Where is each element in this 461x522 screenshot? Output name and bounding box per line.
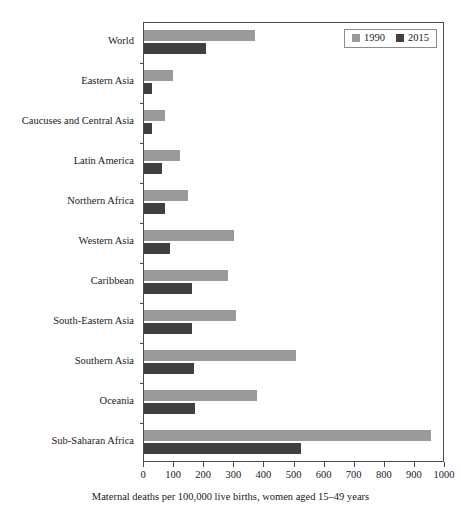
- bar-2015: [144, 443, 301, 454]
- bar-1990: [144, 30, 255, 41]
- x-tick-label: 1000: [434, 469, 455, 480]
- x-tick: [354, 462, 355, 467]
- category-label: Latin America: [74, 155, 134, 166]
- bar-2015: [144, 43, 206, 54]
- x-tick: [263, 462, 264, 467]
- x-tick-label: 900: [406, 469, 422, 480]
- category-label: Sub-Saharan Africa: [51, 435, 134, 446]
- x-tick: [173, 462, 174, 467]
- bar-group: [144, 223, 443, 263]
- bar-2015: [144, 323, 192, 334]
- bar-2015: [144, 123, 152, 134]
- x-tick-label: 700: [346, 469, 362, 480]
- bar-1990: [144, 110, 165, 121]
- bar-1990: [144, 190, 188, 201]
- category-tick: [140, 63, 144, 64]
- x-tick-label: 0: [140, 469, 145, 480]
- category-tick: [140, 423, 144, 424]
- bar-2015: [144, 283, 192, 294]
- category-label: Oceania: [100, 395, 134, 406]
- bar-1990: [144, 390, 257, 401]
- bar-2015: [144, 83, 152, 94]
- category-label: South-Eastern Asia: [53, 315, 134, 326]
- category-tick: [140, 303, 144, 304]
- category-label: Southern Asia: [75, 355, 134, 366]
- bar-1990: [144, 150, 180, 161]
- x-tick: [233, 462, 234, 467]
- category-tick: [140, 223, 144, 224]
- plot-area: 19902015: [143, 22, 444, 462]
- x-tick: [444, 462, 445, 467]
- category-label: Northern Africa: [67, 195, 134, 206]
- category-label: Caribbean: [91, 275, 134, 286]
- bar-1990: [144, 70, 173, 81]
- legend-entry: 1990: [352, 33, 385, 44]
- category-label: World: [108, 35, 134, 46]
- x-tick: [384, 462, 385, 467]
- category-label: Western Asia: [79, 235, 134, 246]
- bar-group: [144, 183, 443, 223]
- category-tick: [140, 143, 144, 144]
- bar-2015: [144, 403, 195, 414]
- x-tick-label: 100: [165, 469, 181, 480]
- legend-swatch-icon: [396, 34, 404, 42]
- chart-figure: WorldEastern AsiaCaucuses and Central As…: [0, 0, 461, 522]
- legend-swatch-icon: [352, 34, 360, 42]
- legend-label: 1990: [364, 33, 385, 44]
- chart-legend: 19902015: [344, 29, 437, 48]
- bar-1990: [144, 230, 234, 241]
- category-tick: [140, 103, 144, 104]
- x-tick: [324, 462, 325, 467]
- category-label: Caucuses and Central Asia: [22, 115, 134, 126]
- category-tick: [140, 263, 144, 264]
- bar-group: [144, 263, 443, 303]
- x-tick: [414, 462, 415, 467]
- x-tick: [143, 462, 144, 467]
- bar-group: [144, 143, 443, 183]
- category-tick: [140, 183, 144, 184]
- x-tick-label: 300: [225, 469, 241, 480]
- legend-label: 2015: [408, 33, 429, 44]
- x-tick-label: 800: [376, 469, 392, 480]
- x-tick: [203, 462, 204, 467]
- bar-1990: [144, 350, 296, 361]
- category-axis-labels: WorldEastern AsiaCaucuses and Central As…: [0, 22, 138, 462]
- bar-1990: [144, 430, 431, 441]
- bar-group: [144, 383, 443, 423]
- x-tick-label: 400: [256, 469, 272, 480]
- bar-group: [144, 423, 443, 463]
- legend-entry: 2015: [396, 33, 429, 44]
- x-axis-title: Maternal deaths per 100,000 live births,…: [0, 491, 461, 502]
- x-tick-label: 600: [316, 469, 332, 480]
- x-tick: [294, 462, 295, 467]
- bar-2015: [144, 203, 165, 214]
- bar-2015: [144, 243, 170, 254]
- bar-group: [144, 343, 443, 383]
- bar-group: [144, 63, 443, 103]
- bar-2015: [144, 363, 194, 374]
- bar-1990: [144, 310, 236, 321]
- bar-group: [144, 103, 443, 143]
- category-label: Eastern Asia: [81, 75, 134, 86]
- category-tick: [140, 383, 144, 384]
- category-tick: [140, 343, 144, 344]
- bar-2015: [144, 163, 162, 174]
- bar-group: [144, 303, 443, 343]
- bar-1990: [144, 270, 228, 281]
- x-tick-label: 200: [195, 469, 211, 480]
- x-tick-label: 500: [286, 469, 302, 480]
